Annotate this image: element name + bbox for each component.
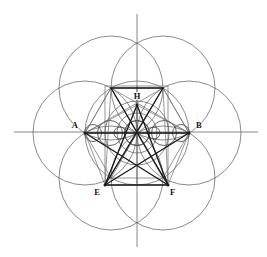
background-layer [0,0,267,257]
vertex-label-H: H [134,91,141,101]
vertex-dot-E [104,184,107,187]
vertex-dot-H [136,104,139,107]
vertex-dot-B [188,132,191,135]
canvas-background [0,0,267,257]
vertex-dot-A [84,132,87,135]
vertex-label-A: A [72,120,79,130]
vertex-label-B: B [196,120,202,130]
geometric-figure-container: ABHEF [0,0,267,257]
vertex-label-F: F [170,187,175,197]
geometric-construction-svg: ABHEF [0,0,267,257]
vertex-label-E: E [94,187,100,197]
